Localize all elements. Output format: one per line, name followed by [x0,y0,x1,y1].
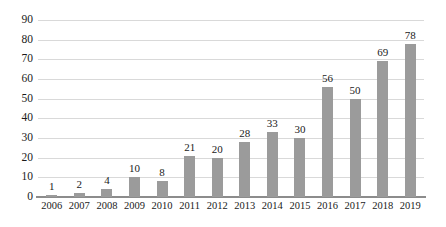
bar-value-label: 78 [393,30,427,41]
bars-layer: 1200622007420081020098201021201120201228… [0,0,446,227]
bar-value-label: 4 [90,175,124,186]
bar [212,158,223,197]
bar-value-label: 50 [338,85,372,96]
bar-value-label: 20 [200,144,234,155]
bar [74,193,85,197]
bar-chart: 0102030405060708090 12006220074200810200… [0,0,446,227]
bar [267,132,278,197]
bar [405,44,416,197]
bar [46,195,57,197]
bar [350,99,361,197]
bar-value-label: 8 [145,167,179,178]
bar-value-label: 69 [366,47,400,58]
bar-value-label: 30 [283,124,317,135]
bar [239,142,250,197]
bar [184,156,195,197]
bar [377,61,388,197]
bar-value-label: 56 [311,73,345,84]
bar [101,189,112,197]
bar-value-label: 28 [228,128,262,139]
bar [322,87,333,197]
x-axis-tick-label: 2019 [393,200,427,212]
bar [157,181,168,197]
bar [294,138,305,197]
bar [129,177,140,197]
